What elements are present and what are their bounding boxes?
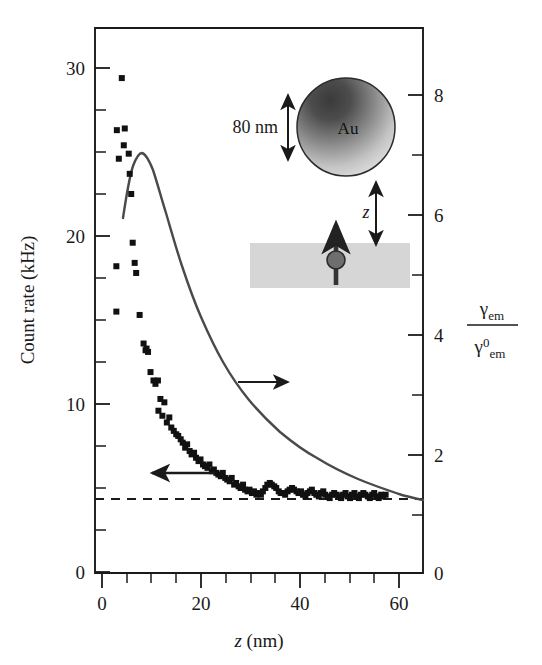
left-tick-label-30: 30 [66,58,85,79]
data-point-marker [128,191,134,197]
right-tick-label-0: 0 [434,563,444,584]
right-tick-label-6: 6 [434,205,444,226]
data-point-marker [126,151,132,157]
right-tick-label-4: 4 [434,325,444,346]
diameter-label: 80 nm [232,117,278,137]
data-point-marker [113,263,119,269]
bottom-tick-label-40: 40 [291,593,310,614]
data-point-marker [116,156,122,162]
data-point-marker [127,171,133,177]
bottom-axis-ticks [102,573,399,588]
bottom-axis-title: z (nm) [233,630,283,652]
data-point-marker [145,349,151,355]
left-tick-label-0: 0 [76,562,86,583]
data-point-marker [121,142,127,148]
data-point-marker [159,413,165,419]
scientific-figure: 30 20 10 0 Count rate (kHz) 8 6 4 2 0 γe… [0,0,542,665]
inset-schematic: Au 80 nm z [232,78,410,288]
data-point-marker [148,369,154,375]
data-point-marker [114,127,120,133]
bottom-axis-tick-labels: 0 20 40 60 [97,593,408,614]
right-axis-tick-labels: 8 6 4 2 0 [434,85,444,584]
left-axis-ticks [95,68,110,572]
right-tick-label-2: 2 [434,445,444,466]
data-point-marker [184,441,190,447]
data-point-marker [161,399,167,405]
right-axis-ticks [408,95,423,573]
left-tick-label-20: 20 [66,226,85,247]
data-point-marker [119,75,125,81]
left-axis-title: Count rate (kHz) [17,236,39,365]
bottom-tick-label-0: 0 [97,593,107,614]
sphere-label: Au [338,119,359,138]
dipole-bead-icon [327,251,345,269]
right-axis-title: γem γ0em [467,298,518,361]
data-point-marker [132,260,138,266]
data-point-marker [137,312,143,318]
data-point-marker [130,240,136,246]
gap-label: z [361,202,369,222]
left-axis-tick-labels: 30 20 10 0 [66,58,85,583]
theory-curve [123,153,423,500]
right-axis-title-denominator: γ0em [474,335,506,361]
left-tick-label-10: 10 [66,394,85,415]
bottom-tick-label-20: 20 [192,593,211,614]
right-tick-label-8: 8 [434,85,444,106]
data-point-marker [113,309,119,315]
data-point-marker [166,414,172,420]
right-axis-title-numerator: γem [479,298,504,323]
data-point-marker [122,125,128,131]
data-point-marker [133,270,139,276]
data-point-marker [383,492,389,498]
figure-panel: 30 20 10 0 Count rate (kHz) 8 6 4 2 0 γe… [0,0,542,665]
bottom-tick-label-60: 60 [390,593,409,614]
data-point-marker [155,377,161,383]
